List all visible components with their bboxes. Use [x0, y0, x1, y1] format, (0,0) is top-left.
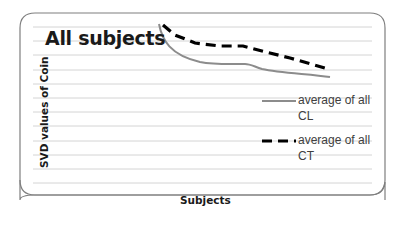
- x-axis-label: Subjects: [180, 194, 231, 206]
- legend-item-cl: average of all CL: [298, 92, 370, 124]
- legend-item-ct: average of all CT: [298, 132, 370, 164]
- y-axis-label: SVD values of Coin: [38, 28, 50, 168]
- chart-title: All subjects: [45, 27, 165, 49]
- series-cl-line: [159, 24, 330, 77]
- legend-cl-label-line1: average of all: [298, 92, 370, 108]
- legend-cl-label-line2: CL: [298, 108, 370, 124]
- legend-ct-label-line2: CT: [298, 148, 370, 164]
- legend-ct-label-line1: average of all: [298, 132, 370, 148]
- series-ct-line: [163, 25, 325, 68]
